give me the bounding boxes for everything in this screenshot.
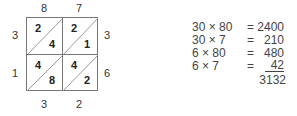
sum-total: 3132 (250, 74, 286, 87)
cell-tens-digit: 2 (71, 22, 77, 34)
cell-ones-digit: 4 (49, 38, 55, 50)
lattice-cell: 4 2 (62, 54, 98, 91)
lattice-cell: 2 1 (62, 18, 98, 55)
bottom-digit-label: 2 (72, 98, 86, 110)
lattice-grid: 2 4 2 1 4 8 4 2 (26, 17, 98, 91)
product-expression: 6 × 7 (192, 60, 219, 73)
cell-tens-digit: 2 (35, 22, 41, 34)
diagonal-line-icon (63, 55, 98, 91)
cell-ones-digit: 1 (84, 38, 90, 50)
left-digit-label: 1 (8, 67, 22, 79)
equals-sign: = (247, 60, 254, 73)
right-digit-label: 3 (100, 29, 114, 41)
top-digit-label: 7 (72, 2, 86, 14)
cell-tens-digit: 4 (35, 59, 41, 71)
diagonal-line-icon (63, 18, 98, 55)
top-digit-label: 8 (37, 2, 51, 14)
partial-product-row: 6 × 7 = 42 (192, 60, 286, 73)
cell-tens-digit: 4 (71, 59, 77, 71)
product-value: 42 (265, 60, 284, 72)
diagonal-line-icon (27, 18, 63, 55)
bottom-digit-label: 3 (37, 98, 51, 110)
cell-ones-digit: 2 (84, 74, 90, 86)
lattice-cell: 4 8 (27, 54, 63, 91)
left-digit-label: 3 (8, 29, 22, 41)
right-digit-label: 6 (100, 67, 114, 79)
cell-ones-digit: 8 (49, 74, 55, 86)
diagonal-line-icon (27, 55, 63, 91)
lattice-cell: 2 4 (27, 18, 63, 55)
